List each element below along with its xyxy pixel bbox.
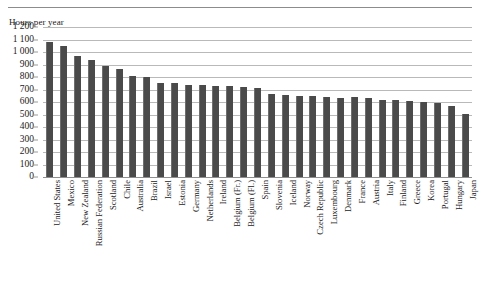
bar (171, 83, 178, 177)
bar (434, 103, 441, 177)
x-tick-label: Mexico (67, 180, 76, 206)
y-tick-label: 500 (20, 110, 34, 120)
x-tick-label: Brazil (150, 180, 159, 201)
x-tick-label: Portugal (441, 180, 450, 209)
bar (392, 100, 399, 177)
bar (337, 98, 344, 177)
chart-plot-area: 1 2001 1001 0009008007006005004003002001… (0, 27, 480, 179)
bar (199, 85, 206, 177)
bar (420, 102, 427, 177)
x-tick-label: Chile (123, 180, 132, 199)
y-tick-label: 400 (20, 122, 34, 132)
bar (102, 66, 109, 177)
x-tick-label: Japan (469, 180, 478, 200)
y-tick-mark (33, 177, 38, 178)
x-tick-label: Luxembourg (330, 180, 339, 224)
y-tick-mark (33, 52, 38, 53)
x-tick-label: Spain (261, 180, 270, 200)
x-tick-label: France (358, 180, 367, 203)
bar (60, 46, 67, 177)
bar (448, 106, 455, 177)
x-tick-label: Australia (136, 180, 145, 212)
x-tick-label: Czech Republic (316, 180, 325, 235)
x-tick-label: Austria (372, 180, 381, 205)
bar (46, 42, 53, 177)
x-axis-labels: United StatesMexicoNew ZealandRussian Fe… (43, 180, 472, 280)
y-tick-label: 700 (20, 85, 34, 95)
x-tick-label: Belgium (Fl.) (247, 180, 256, 227)
x-tick-label: Denmark (344, 180, 353, 212)
bar (282, 95, 289, 177)
x-tick-label: Slovenia (275, 180, 284, 210)
bar (323, 97, 330, 177)
y-tick-mark (33, 127, 38, 128)
y-tick-label: 1 000 (13, 47, 34, 57)
x-tick-label: Belgium (Fr.) (233, 180, 242, 227)
x-tick-label: Germany (192, 180, 201, 212)
y-tick-label: 1 200 (13, 22, 34, 32)
bar (185, 85, 192, 178)
x-tick-label: Scotland (109, 180, 118, 210)
x-tick-label: Israel (164, 180, 173, 199)
y-tick-mark (33, 64, 38, 65)
y-tick-mark (33, 114, 38, 115)
bar (379, 100, 386, 178)
y-tick-label: 300 (20, 135, 34, 145)
x-tick-label: Iceland (289, 180, 298, 205)
bar (254, 88, 261, 177)
x-tick-label: Italy (386, 180, 395, 196)
x-tick-label: Greece (413, 180, 422, 204)
y-tick-mark (33, 152, 38, 153)
bar (462, 114, 469, 177)
bar (74, 56, 81, 177)
x-tick-label: Estonia (178, 180, 187, 206)
x-tick-label: Norway (303, 180, 312, 208)
bar (365, 98, 372, 177)
bar (240, 87, 247, 177)
bar (116, 69, 123, 177)
bar (212, 86, 219, 177)
bar (268, 94, 275, 177)
x-tick-label: United States (53, 180, 62, 226)
y-tick-mark (33, 89, 38, 90)
bar-series (43, 27, 472, 177)
x-tick-label: Korea (427, 180, 436, 201)
x-tick-label: Hungary (455, 180, 464, 210)
y-tick-mark (33, 39, 38, 40)
x-tick-label: Finland (399, 180, 408, 206)
bar (157, 83, 164, 177)
y-tick-label: 1 100 (13, 35, 34, 45)
bar (143, 77, 150, 177)
y-tick-label: 100 (20, 160, 34, 170)
bar (406, 101, 413, 177)
y-tick-mark (33, 102, 38, 103)
y-tick-label: 900 (20, 60, 34, 70)
top-divider (8, 7, 472, 8)
y-tick-mark (33, 139, 38, 140)
y-axis-ticks: 1 2001 1001 0009008007006005004003002001… (0, 27, 37, 179)
y-tick-label: 600 (20, 97, 34, 107)
y-tick-mark (33, 164, 38, 165)
x-tick-label: Netherlands (206, 180, 215, 222)
bar (129, 76, 136, 177)
y-tick-mark (33, 27, 38, 28)
y-tick-label: 800 (20, 72, 34, 82)
bar (309, 96, 316, 177)
x-tick-label: Ireland (219, 180, 228, 204)
x-axis-line (43, 177, 472, 178)
bar (296, 96, 303, 177)
y-tick-mark (33, 77, 38, 78)
y-tick-label: 200 (20, 147, 34, 157)
bar (226, 86, 233, 177)
bar (88, 60, 95, 178)
x-tick-label: New Zealand (81, 180, 90, 226)
x-tick-label: Russian Federation (95, 180, 104, 246)
bar (351, 97, 358, 177)
